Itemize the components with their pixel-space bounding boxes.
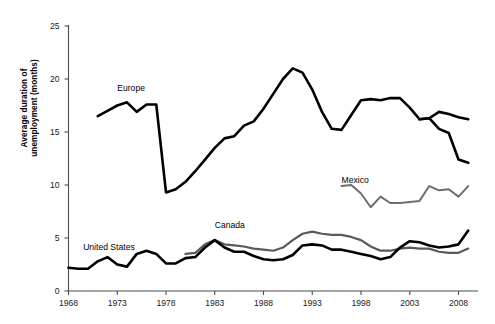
x-tick-label: 1988	[244, 298, 284, 308]
x-tick-label: 1968	[49, 298, 89, 308]
y-tick-label: 25	[38, 21, 60, 31]
y-axis-title-line1: Average duration of	[20, 69, 30, 148]
x-tick-label: 1973	[97, 298, 137, 308]
series-line-europe	[98, 68, 469, 192]
y-tick-label: 5	[38, 233, 60, 243]
series-line-europe-tail	[420, 118, 469, 163]
x-tick-label: 1993	[292, 298, 332, 308]
chart-container: Average duration of unemployment (months…	[0, 0, 495, 324]
x-tick-label: 1978	[146, 298, 186, 308]
series-label-canada: Canada	[215, 220, 245, 230]
x-tick-label: 2008	[439, 298, 479, 308]
series-label-europe: Europe	[117, 83, 145, 93]
y-tick-label: 0	[38, 286, 60, 296]
line-chart-plot	[0, 0, 495, 324]
series-label-mexico: Mexico	[342, 175, 369, 185]
series-label-united-states: United States	[83, 242, 135, 252]
y-tick-label: 20	[38, 74, 60, 84]
x-tick-label: 2003	[390, 298, 430, 308]
y-tick-label: 15	[38, 127, 60, 137]
y-tick-label: 10	[38, 180, 60, 190]
series-line-mexico	[342, 185, 469, 207]
x-tick-label: 1998	[341, 298, 381, 308]
x-tick-label: 1983	[195, 298, 235, 308]
series-line-canada	[186, 232, 469, 254]
y-axis-title: Average duration of unemployment (months…	[18, 8, 42, 208]
